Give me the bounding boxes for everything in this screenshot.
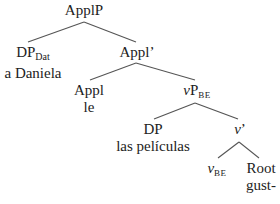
edge-applbar-vpbe: [136, 63, 195, 80]
node-label: P: [190, 82, 198, 98]
node-label-v: v: [234, 121, 241, 137]
edge-applbar-appl: [90, 63, 136, 80]
node-dp-dat: DPDat a Daniela: [4, 44, 61, 82]
node-label: ApplP: [65, 2, 103, 18]
edge-applp-applbar: [84, 22, 136, 42]
edge-vpbe-dp: [154, 103, 195, 119]
node-subscript: Dat: [35, 51, 49, 62]
node-v-bar: v’: [234, 121, 246, 138]
node-label: ’: [241, 121, 246, 137]
node-label-v: v: [207, 160, 214, 176]
node-label: DP: [16, 44, 35, 60]
node-label: Root: [246, 160, 276, 177]
node-appl-bar: Appl’: [120, 44, 155, 61]
tree-edges: [0, 0, 280, 204]
edge-vbar-vbe: [218, 142, 239, 158]
node-label: Appl: [74, 82, 104, 99]
node-word: gust-: [246, 177, 276, 194]
node-subscript: BE: [198, 90, 211, 100]
node-root: Root gust-: [246, 160, 276, 194]
node-label: Appl’: [120, 44, 155, 60]
node-dp: DP las películas: [116, 121, 190, 155]
node-subscript: BE: [214, 168, 227, 178]
node-label-v: v: [183, 82, 190, 98]
node-word: a Daniela: [4, 65, 61, 82]
edge-vbar-root: [239, 142, 259, 158]
node-vp-be: vPBE: [183, 82, 211, 104]
node-appl: Appl le: [74, 82, 104, 116]
node-word: le: [74, 99, 104, 116]
node-applp: ApplP: [65, 2, 103, 19]
node-label: DP: [116, 121, 190, 138]
node-word: las películas: [116, 138, 190, 155]
edge-applp-dpdat: [28, 22, 84, 42]
node-v-be: vBE: [207, 160, 226, 182]
edge-vpbe-vbar: [195, 103, 238, 119]
